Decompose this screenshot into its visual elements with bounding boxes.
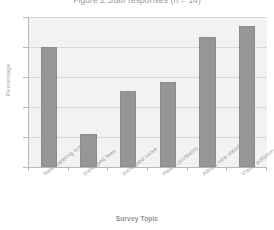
x-tick-mark: [107, 167, 108, 171]
y-tick-mark: [23, 17, 28, 18]
x-tick-mark: [28, 167, 29, 171]
bar: [120, 91, 137, 168]
gridline: [29, 47, 267, 48]
y-axis-label: Percentage: [5, 50, 11, 110]
gridline: [29, 17, 267, 18]
gridline: [29, 107, 267, 108]
y-tick-mark: [23, 137, 28, 138]
y-tick-mark: [23, 107, 28, 108]
gridline: [29, 77, 267, 78]
plot-area: [28, 17, 267, 167]
figure-container: Figure 2 Staff responses (n = 14) Percen…: [0, 0, 274, 230]
x-tick-mark: [266, 167, 267, 171]
x-tick-mark: [226, 167, 227, 171]
x-tick-mark: [147, 167, 148, 171]
bar: [160, 82, 177, 168]
chart-title: Figure 2 Staff responses (n = 14): [0, 0, 274, 5]
bar: [41, 47, 58, 167]
x-tick-mark: [187, 167, 188, 171]
x-axis-label: Survey Topic: [0, 215, 274, 222]
x-tick-mark: [68, 167, 69, 171]
gridline: [29, 137, 267, 138]
y-tick-mark: [23, 77, 28, 78]
bar: [199, 37, 216, 168]
y-tick-mark: [23, 47, 28, 48]
